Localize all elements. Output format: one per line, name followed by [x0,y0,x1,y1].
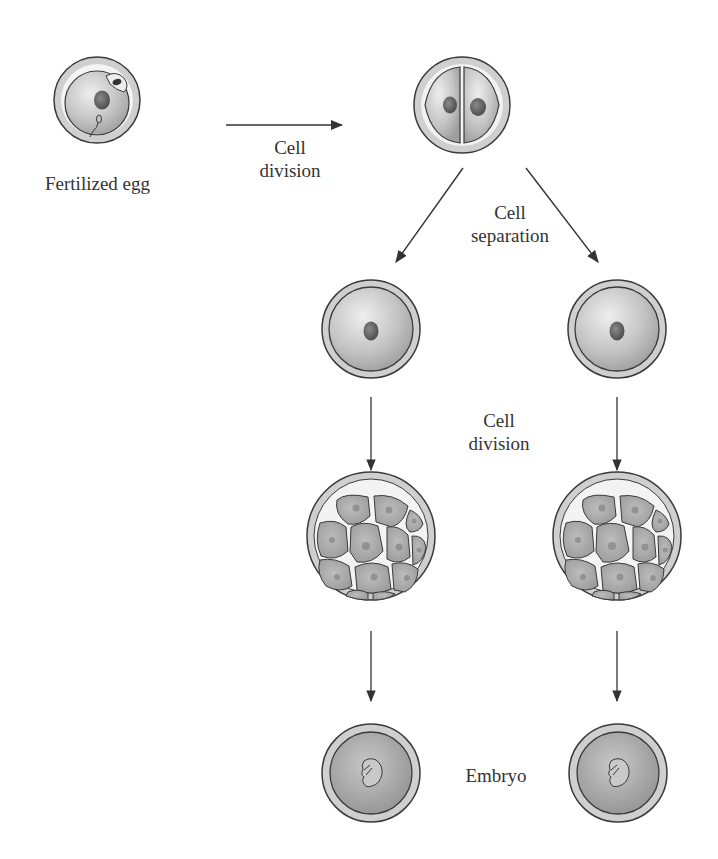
label-cell-division-1-line2: division [240,159,340,182]
label-cell-separation-line1: Cell [450,201,570,224]
left-single-cell [322,280,420,378]
right-single-cell [568,280,666,378]
two-cell-stage [414,57,510,153]
label-cell-separation-line2: separation [450,224,570,247]
label-cell-separation: Cell separation [450,201,570,247]
label-fertilized-egg: Fertilized egg [20,172,175,195]
label-cell-division-1-line1: Cell [240,136,340,159]
twin-formation-diagram [0,0,718,859]
label-cell-division-2-line1: Cell [444,409,554,432]
fertilized-egg-cell [54,57,140,143]
label-cell-division-1: Cell division [240,136,340,182]
right-morula [553,472,681,600]
left-morula [307,472,435,600]
label-cell-division-2-line2: division [444,432,554,455]
label-embryo: Embryo [448,764,544,787]
label-cell-division-2: Cell division [444,409,554,455]
left-embryo [322,724,420,822]
right-embryo [569,724,667,822]
